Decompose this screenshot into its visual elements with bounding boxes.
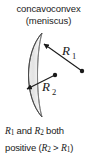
caption-close-paren: ) [70,142,73,153]
caption-conjunction: and [14,125,34,136]
label-r2-text: R [41,79,50,94]
caption-line-1: R1 and R2 both [5,124,97,141]
caption-gt-sign: > [51,142,61,153]
center-of-curvature-dot-r2 [53,73,57,77]
label-r1-text: R [61,43,70,58]
lens-figure: concavoconvex (meniscus) [0,0,97,159]
figure-caption: R1 and R2 both positive (R2 > R1) [5,124,97,158]
figure-title-line1: concavoconvex [0,3,97,15]
center-of-curvature-dot-r1 [80,69,84,73]
lens-body [29,33,43,117]
label-r1-subscript: 1 [72,51,76,61]
meniscus-lens-diagram: R 1 R 2 [0,27,97,122]
label-r2-subscript: 2 [52,87,56,97]
caption-both: both [44,125,64,136]
figure-title: concavoconvex (meniscus) [0,3,97,27]
caption-positive: positive ( [5,142,42,153]
figure-title-line2: (meniscus) [0,15,97,27]
label-r2: R 2 [41,79,56,97]
caption-line-2: positive (R2 > R1) [5,141,97,158]
